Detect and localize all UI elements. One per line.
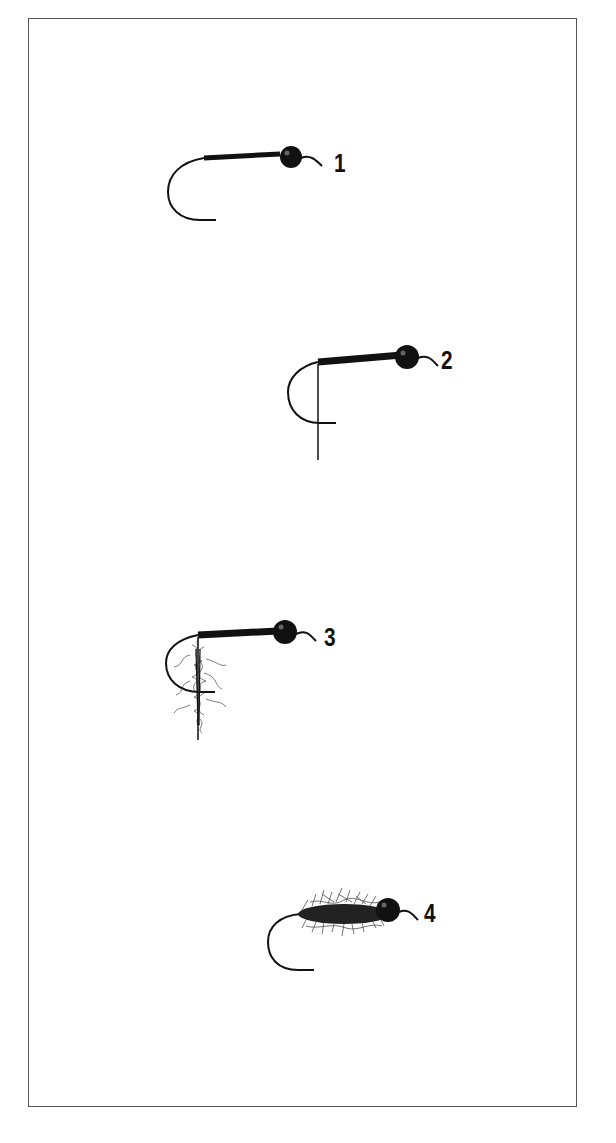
step-number-4: 4 — [424, 898, 436, 929]
step-number-3: 3 — [324, 622, 336, 653]
hook-bead-thread-icon — [160, 140, 340, 230]
step-4-illustration — [262, 880, 432, 980]
hook-thread-hanging-icon — [280, 340, 460, 470]
step-1-illustration — [160, 140, 340, 230]
step-number-2: 2 — [441, 345, 453, 376]
step-2-illustration — [280, 340, 460, 470]
dubbing-loop-icon — [160, 615, 340, 745]
step-number-1: 1 — [334, 148, 346, 179]
step-3-illustration — [160, 615, 340, 745]
finished-dubbed-fly-icon — [262, 880, 432, 980]
